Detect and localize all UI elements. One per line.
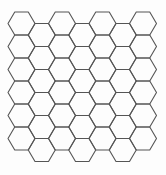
hex-cell — [130, 12, 157, 35]
hex-cell — [49, 81, 76, 104]
hex-cell — [8, 81, 35, 104]
hex-cell — [89, 58, 116, 81]
hex-cell — [89, 12, 116, 35]
hex-cell — [130, 35, 157, 58]
hex-grid-diagram — [0, 0, 166, 175]
hex-cell — [69, 24, 96, 47]
hex-grid — [8, 12, 157, 162]
hex-cell — [89, 35, 116, 58]
hex-cell — [8, 35, 35, 58]
hex-cell — [130, 127, 157, 150]
hex-cell — [69, 116, 96, 139]
hex-cell — [130, 81, 157, 104]
hex-cell — [28, 139, 55, 162]
hex-cell — [28, 47, 55, 70]
hex-cell — [69, 70, 96, 93]
hex-cell — [109, 116, 136, 139]
hex-cell — [28, 93, 55, 116]
hex-cell — [69, 47, 96, 70]
hex-cell — [130, 58, 157, 81]
hex-cell — [49, 104, 76, 127]
hex-cell — [89, 104, 116, 127]
hex-cell — [28, 116, 55, 139]
hex-cell — [8, 58, 35, 81]
hex-cell — [109, 70, 136, 93]
hex-cell — [109, 24, 136, 47]
hex-cell — [89, 81, 116, 104]
hex-cell — [69, 139, 96, 162]
hex-cell — [69, 93, 96, 116]
hex-cell — [49, 12, 76, 35]
hex-cell — [89, 127, 116, 150]
hex-cell — [8, 127, 35, 150]
hex-cell — [28, 70, 55, 93]
hex-cell — [49, 58, 76, 81]
hex-cell — [109, 93, 136, 116]
hex-cell — [109, 139, 136, 162]
hex-cell — [49, 35, 76, 58]
hex-cell — [49, 127, 76, 150]
hex-cell — [8, 12, 35, 35]
hex-cell — [8, 104, 35, 127]
hex-cell — [109, 47, 136, 70]
hex-cell — [28, 24, 55, 47]
hex-cell — [130, 104, 157, 127]
